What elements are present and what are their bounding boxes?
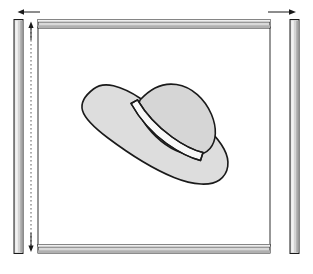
- frame-bottom-rail: [38, 245, 270, 254]
- hat-frame-illustration: [0, 0, 313, 274]
- frame-right-post-highlight: [291, 21, 294, 253]
- frame-top-rail-highlight: [38, 20, 270, 23]
- frame-left-post: [14, 20, 23, 254]
- frame-bottom-rail-highlight: [38, 245, 270, 248]
- frame-left-post-highlight: [15, 21, 18, 253]
- frame-bottom-rail-shadow: [38, 250, 270, 253]
- frame-left-post-shadow: [20, 21, 22, 253]
- frame-right-post: [290, 20, 299, 254]
- frame-top-rail: [38, 20, 270, 29]
- diagram-canvas: [0, 0, 313, 274]
- frame-right-post-shadow: [296, 21, 298, 253]
- frame-top-rail-shadow: [38, 25, 270, 28]
